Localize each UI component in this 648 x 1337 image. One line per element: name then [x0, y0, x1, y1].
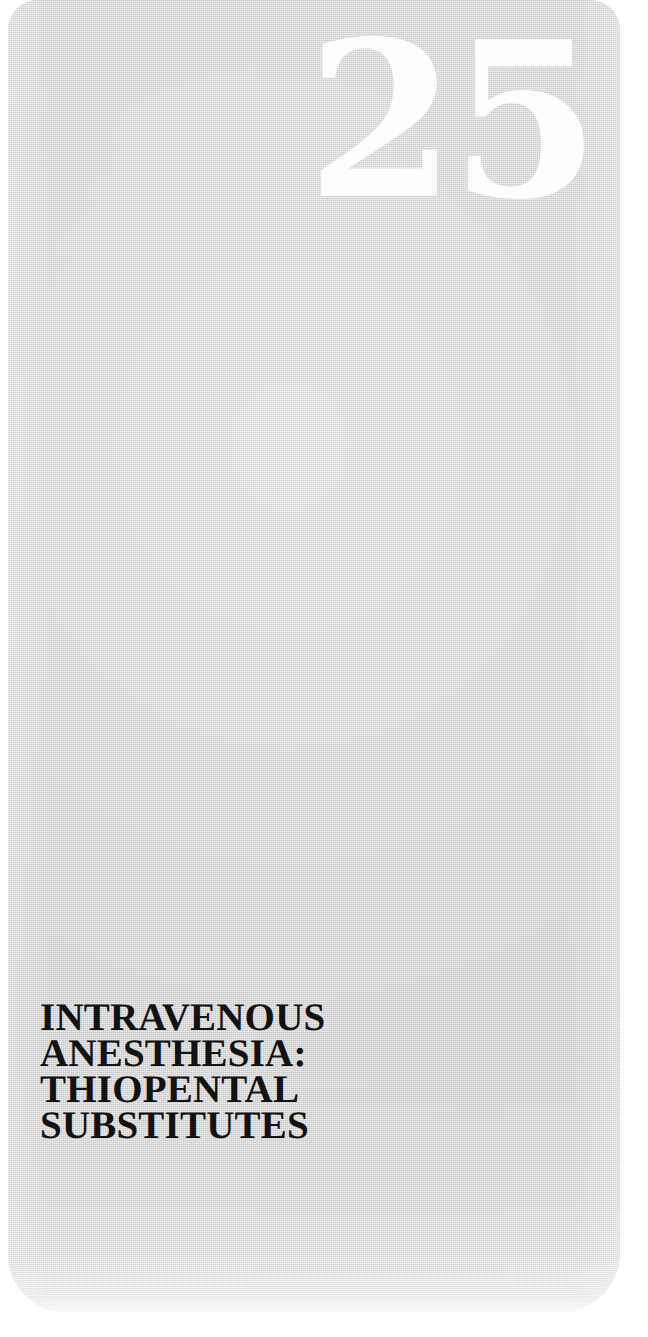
- chapter-title: INTRAVENOUS ANESTHESIA: THIOPENTAL SUBST…: [40, 1000, 510, 1144]
- chapter-title-line-4: SUBSTITUTES: [40, 1108, 510, 1144]
- chapter-number-graphic: 25: [298, 14, 598, 214]
- chapter-opening-page: 25 INTRAVENOUS ANESTHESIA: THIOPENTAL SU…: [8, 0, 620, 1312]
- chapter-title-line-2: ANESTHESIA:: [40, 1036, 510, 1072]
- chapter-number-text: 25: [307, 0, 594, 247]
- bottom-fade-overlay: [8, 1192, 620, 1312]
- chapter-title-line-1: INTRAVENOUS: [40, 1000, 510, 1036]
- chapter-title-line-3: THIOPENTAL: [40, 1072, 510, 1108]
- chapter-number: 25: [298, 14, 598, 214]
